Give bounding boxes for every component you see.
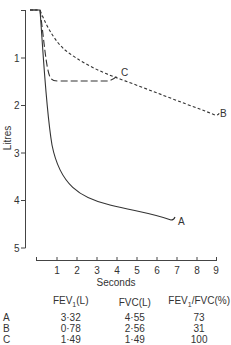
y-tick-1: 1 (14, 53, 20, 64)
y-axis (21, 10, 26, 248)
series-c-label: C (121, 67, 128, 78)
x-axis (36, 257, 217, 261)
x-tick-2: 2 (74, 265, 80, 276)
series-a-line (30, 10, 175, 220)
series-c-line (30, 10, 117, 81)
x-tick-6: 6 (154, 265, 160, 276)
series-a-label: A (178, 216, 185, 227)
x-tick-7: 7 (174, 265, 180, 276)
x-tick-5: 5 (134, 265, 140, 276)
series-b-line (30, 10, 220, 115)
fvc-value: 4·55 (101, 312, 168, 323)
x-tick-3: 3 (94, 265, 100, 276)
header-blank (3, 295, 40, 312)
y-tick-4: 4 (14, 195, 20, 206)
x-tick-9: 9 (213, 265, 219, 276)
y-tick-2: 2 (14, 100, 20, 111)
header-fvc: FVC(L) (101, 295, 168, 312)
fev1-value: 1·49 (40, 334, 101, 345)
spirometry-summary-table: FEV1(L) FVC(L) FEV1/FVC(%) A 3·32 4·55 7… (3, 295, 230, 345)
x-tick-8: 8 (194, 265, 200, 276)
y-tick-labels: 1 2 3 4 5 (14, 53, 20, 254)
x-tick-labels: 1 2 3 4 5 6 7 8 9 (54, 265, 219, 276)
ratio-value: 31 (168, 323, 230, 334)
x-tick-4: 4 (114, 265, 120, 276)
row-id: B (3, 323, 40, 334)
table-row: C 1·49 1·49 100 (3, 334, 230, 345)
y-axis-title: Litres (2, 126, 13, 150)
row-id: C (3, 334, 40, 345)
ratio-value: 73 (168, 312, 230, 323)
y-tick-5: 5 (14, 243, 20, 254)
spirometry-chart: 1 2 3 4 5 Litres 1 2 3 4 5 6 7 8 9 Secon… (0, 0, 230, 290)
fvc-value: 1·49 (101, 334, 168, 345)
fev1-value: 0·78 (40, 323, 101, 334)
table-row: A 3·32 4·55 73 (3, 312, 230, 323)
x-tick-1: 1 (54, 265, 60, 276)
series-b-label: B (220, 108, 227, 119)
table-header-row: FEV1(L) FVC(L) FEV1/FVC(%) (3, 295, 230, 312)
y-tick-3: 3 (14, 148, 20, 159)
table-row: B 0·78 2·56 31 (3, 323, 230, 334)
header-ratio: FEV1/FVC(%) (168, 295, 230, 312)
x-axis-title: Seconds (97, 277, 136, 288)
fvc-value: 2·56 (101, 323, 168, 334)
row-id: A (3, 312, 40, 323)
header-fev1: FEV1(L) (40, 295, 101, 312)
ratio-value: 100 (168, 334, 230, 345)
fev1-value: 3·32 (40, 312, 101, 323)
